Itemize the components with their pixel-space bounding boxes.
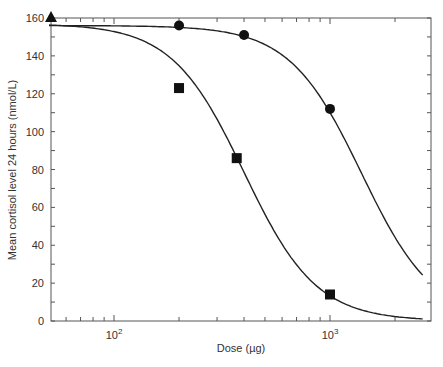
y-tick-label: 140 <box>26 50 44 62</box>
circle-marker <box>239 30 249 40</box>
fit-curve-squares <box>49 25 423 319</box>
square-marker <box>232 153 242 163</box>
dose-response-chart: 020406080100120140160102103 Dose (µg) Me… <box>0 0 443 367</box>
x-tick-label: 102 <box>106 327 123 341</box>
y-tick-label: 20 <box>32 277 44 289</box>
axes: 020406080100120140160102103 <box>26 12 431 341</box>
y-tick-label: 100 <box>26 126 44 138</box>
x-tick-label: 103 <box>322 327 339 341</box>
circle-marker <box>325 104 335 114</box>
y-tick-label: 60 <box>32 201 44 213</box>
triangle-marker <box>45 11 57 22</box>
fit-curves <box>49 25 423 319</box>
plot-frame <box>51 18 431 321</box>
circle-marker <box>174 21 184 31</box>
y-tick-label: 160 <box>26 12 44 24</box>
y-tick-label: 40 <box>32 239 44 251</box>
y-tick-label: 80 <box>32 164 44 176</box>
square-marker <box>174 83 184 93</box>
y-tick-label: 120 <box>26 88 44 100</box>
y-tick-label: 0 <box>38 315 44 327</box>
y-axis-title: Mean cortisol level 24 hours (nmol/L) <box>6 80 18 260</box>
fit-curve-circles <box>49 26 423 276</box>
data-markers <box>45 11 335 299</box>
x-axis-title: Dose (µg) <box>217 342 266 354</box>
square-marker <box>325 289 335 299</box>
